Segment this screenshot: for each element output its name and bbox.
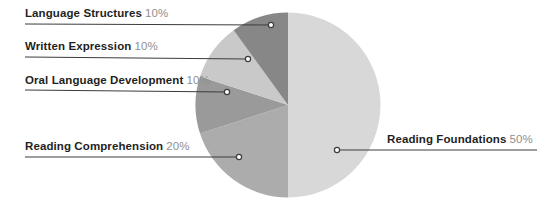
slice-percent: 10% — [186, 74, 209, 86]
pie-chart-figure: Language Structures10% Written Expressio… — [0, 0, 556, 211]
slice-percent: 50% — [509, 133, 532, 145]
slice-label: Written Expression — [25, 40, 131, 52]
callout-oral-language-development: Oral Language Development10% — [25, 73, 210, 87]
leader-marker-reading-comprehension — [236, 154, 241, 159]
callout-reading-foundations: Reading Foundations50% — [387, 132, 533, 146]
leader-marker-oral-language-development — [224, 89, 229, 94]
slice-label: Reading Comprehension — [25, 140, 163, 152]
slice-percent: 10% — [134, 40, 157, 52]
pie-chart — [0, 0, 556, 211]
slice-label: Language Structures — [25, 7, 142, 19]
callout-written-expression: Written Expression10% — [25, 39, 158, 53]
leader-line-language-structures — [25, 24, 271, 25]
leader-marker-reading-foundations — [334, 147, 339, 152]
callout-language-structures: Language Structures10% — [25, 6, 168, 20]
slice-percent: 10% — [145, 7, 168, 19]
slice-label: Reading Foundations — [387, 133, 506, 145]
pie-slice-reading-foundations — [288, 13, 381, 198]
slice-percent: 20% — [166, 140, 189, 152]
callout-reading-comprehension: Reading Comprehension20% — [25, 139, 190, 153]
slice-label: Oral Language Development — [25, 74, 183, 86]
leader-marker-written-expression — [245, 56, 250, 61]
leader-marker-language-structures — [268, 22, 273, 27]
